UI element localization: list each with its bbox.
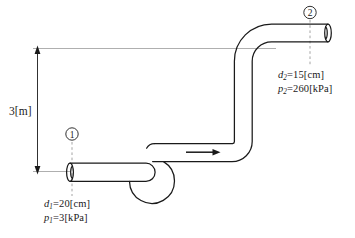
station-1-marker-number: 1 — [70, 130, 75, 140]
station-2-pressure-label: p2=260[kPa] — [278, 82, 332, 96]
pipe-outlet-mouth-inner — [326, 27, 328, 39]
station-2-pressure-subscript: 2 — [283, 88, 287, 96]
pipe-loop-connector — [147, 144, 155, 149]
diagram-canvas: 1 2 — [0, 0, 355, 238]
pipe-body — [67, 24, 332, 203]
station-2-diameter-value: =15[cm] — [287, 69, 324, 80]
station-2-marker: 2 — [304, 6, 316, 18]
station-1-pressure-label: p1=3[kPa] — [44, 211, 90, 225]
station-2-marker-number: 2 — [308, 8, 313, 18]
dimension-extension-lines — [33, 49, 276, 172]
station-1-pressure-value: =3[kPa] — [53, 212, 88, 223]
station-1-diameter-label: d1=20[cm] — [44, 197, 90, 211]
station-2-pressure-value: =260[kPa] — [287, 83, 332, 94]
station-1-diameter-value: =20[cm] — [53, 198, 90, 209]
height-dimension-label: 3[m] — [9, 104, 32, 120]
station-2-properties: d2=15[cm] p2=260[kPa] — [278, 68, 332, 96]
height-dimension-arrow — [35, 46, 41, 175]
station-reference-lines — [72, 20, 310, 196]
station-2-diameter-subscript: 2 — [283, 74, 287, 82]
station-1-marker: 1 — [66, 128, 78, 140]
flow-direction-arrow — [186, 149, 221, 155]
station-1-diameter-subscript: 1 — [49, 203, 53, 211]
station-1-pressure-subscript: 1 — [49, 217, 53, 225]
pipe-inlet-segment — [70, 163, 155, 181]
pipe-loop-outer — [130, 162, 175, 204]
station-2-diameter-label: d2=15[cm] — [278, 68, 332, 82]
station-1-properties: d1=20[cm] p1=3[kPa] — [44, 197, 90, 225]
